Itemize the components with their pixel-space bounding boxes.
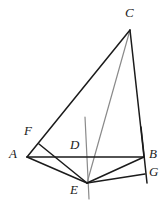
- vertex-label-E: E: [70, 183, 78, 196]
- segment-AE: [27, 157, 87, 183]
- vertex-label-D: D: [70, 138, 79, 151]
- vertex-label-A: A: [9, 147, 17, 160]
- vertex-label-G: G: [149, 165, 158, 178]
- segment-CE: [87, 30, 130, 183]
- vertex-label-F: F: [24, 124, 32, 137]
- vertex-label-B: B: [149, 147, 157, 160]
- line-vertical-through-E: [85, 117, 89, 199]
- segment-FE: [39, 144, 87, 183]
- geometry-figure: C F A D B G E: [0, 0, 165, 205]
- vertex-label-C: C: [125, 6, 134, 19]
- figure-canvas: [0, 0, 165, 205]
